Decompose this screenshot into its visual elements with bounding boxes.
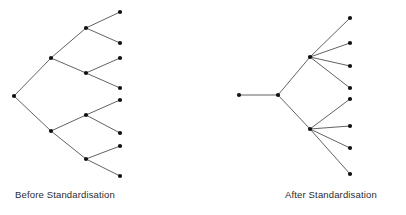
tree-node bbox=[49, 129, 53, 133]
tree-edge bbox=[86, 146, 120, 159]
before-standardisation-caption: Before Standardisation bbox=[15, 189, 115, 200]
after-tree-nodes bbox=[237, 16, 352, 176]
tree-edge bbox=[310, 126, 350, 129]
tree-node bbox=[118, 41, 122, 45]
tree-edge bbox=[51, 28, 86, 58]
tree-node bbox=[348, 146, 352, 150]
tree-edge bbox=[51, 58, 86, 73]
tree-node bbox=[348, 16, 352, 20]
tree-edge bbox=[86, 115, 120, 133]
tree-edge bbox=[278, 57, 310, 95]
tree-edge bbox=[51, 115, 86, 131]
tree-node bbox=[348, 86, 352, 90]
tree-node bbox=[84, 113, 88, 117]
tree-node bbox=[348, 97, 352, 101]
tree-node bbox=[118, 98, 122, 102]
tree-node bbox=[118, 10, 122, 14]
tree-edge bbox=[310, 99, 350, 129]
tree-node bbox=[118, 131, 122, 135]
before-tree-nodes bbox=[12, 10, 122, 178]
tree-node bbox=[118, 144, 122, 148]
tree-edge bbox=[310, 18, 350, 57]
tree-node bbox=[118, 174, 122, 178]
tree-node bbox=[49, 56, 53, 60]
tree-edge bbox=[310, 129, 350, 148]
tree-edge bbox=[86, 12, 120, 28]
tree-node bbox=[348, 124, 352, 128]
tree-node bbox=[84, 157, 88, 161]
tree-edge bbox=[86, 28, 120, 43]
before-tree-edges bbox=[14, 12, 120, 176]
tree-edge bbox=[14, 58, 51, 96]
tree-node bbox=[348, 64, 352, 68]
tree-comparison-figure: Before Standardisation After Standardisa… bbox=[0, 0, 406, 215]
tree-node bbox=[308, 55, 312, 59]
tree-diagram-canvas bbox=[0, 0, 406, 215]
tree-edge bbox=[86, 73, 120, 88]
tree-edge bbox=[51, 131, 86, 159]
after-tree-edges bbox=[239, 18, 350, 174]
tree-edge bbox=[310, 43, 350, 57]
tree-edge bbox=[278, 95, 310, 129]
tree-node bbox=[118, 86, 122, 90]
tree-edge bbox=[86, 58, 120, 73]
tree-edge bbox=[86, 100, 120, 115]
tree-node bbox=[84, 26, 88, 30]
tree-node bbox=[348, 172, 352, 176]
tree-edge bbox=[14, 96, 51, 131]
tree-edge bbox=[310, 129, 350, 174]
tree-node bbox=[308, 127, 312, 131]
tree-node bbox=[118, 56, 122, 60]
tree-edge bbox=[86, 159, 120, 176]
tree-node bbox=[348, 41, 352, 45]
tree-node bbox=[84, 71, 88, 75]
tree-node bbox=[237, 93, 241, 97]
tree-node bbox=[276, 93, 280, 97]
tree-node bbox=[12, 94, 16, 98]
after-standardisation-caption: After Standardisation bbox=[285, 189, 377, 200]
